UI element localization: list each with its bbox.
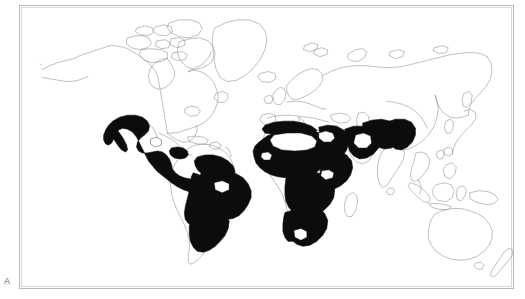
- coastline-scandinavia: [287, 69, 323, 100]
- coastline-northern-europe-continental: [287, 101, 326, 109]
- coastline-banks-island: [127, 36, 152, 50]
- coastline-sumatra: [408, 183, 430, 203]
- coastline-korea: [444, 119, 453, 133]
- coastline-svalbard: [304, 43, 318, 52]
- coastline-borneo: [432, 183, 454, 202]
- map-frame: [19, 5, 514, 289]
- coastline-newfoundland: [214, 91, 228, 102]
- coastline-ireland: [264, 95, 273, 103]
- coastline-mediterranean-north: [267, 115, 329, 122]
- coastline-tasmania: [474, 262, 484, 269]
- coastline-sri-lanka: [387, 188, 395, 195]
- coastline-india: [378, 144, 405, 188]
- coastline-new-zealand: [490, 248, 513, 277]
- world-map-canvas: [20, 6, 513, 288]
- coastline-arctic-islets-5: [171, 52, 187, 61]
- panel-label: A: [4, 276, 10, 286]
- coastline-indochina: [410, 152, 429, 182]
- coastline-bering-strait: [40, 64, 42, 66]
- coastline-novaya-zemlya: [348, 49, 367, 62]
- coastline-japan: [452, 109, 476, 154]
- coastline-new-siberian-islands: [433, 46, 448, 54]
- coastline-japan-kyushu: [444, 147, 452, 156]
- coastline-arctic-islets-2: [136, 26, 154, 36]
- coastline-black-sea: [331, 113, 351, 123]
- coastline-madagascar: [345, 193, 358, 217]
- coastline-alaska: [42, 46, 167, 133]
- coastline-greenland: [212, 20, 267, 82]
- range-yucatan-and-isthmus: [169, 147, 188, 159]
- coastline-arctic-islets-3: [170, 38, 185, 48]
- coastline-new-guinea: [470, 191, 498, 205]
- coastline-arctic-islands-russia: [314, 48, 328, 57]
- coastline-aleutians: [42, 77, 88, 82]
- coastline-kamchatka: [468, 57, 492, 116]
- figure-root: A: [0, 0, 525, 299]
- coastline-victoria-island: [140, 49, 168, 63]
- coastline-australia: [428, 209, 492, 261]
- coastline-great-britain: [273, 87, 286, 104]
- coastline-arctic-islets-4: [155, 40, 170, 49]
- coastline-java: [429, 204, 451, 210]
- coastline-philippines: [443, 163, 456, 179]
- coastline-taiwan: [436, 150, 444, 159]
- hole-arabian-interior: [354, 133, 372, 148]
- coastline-baffin-island: [177, 38, 215, 70]
- coastline-severnaya-zemlya: [390, 50, 405, 59]
- coastline-hudson-bay: [148, 59, 174, 90]
- coastline-ellesmere-island: [167, 20, 202, 38]
- coastline-cuba: [187, 136, 208, 144]
- coastline-eastern-north-america: [167, 71, 218, 134]
- coastline-iceland: [258, 72, 276, 83]
- coastline-siberia-arctic: [323, 53, 487, 76]
- coastline-sea-of-okhotsk: [435, 95, 468, 118]
- hole-central-america-gap: [150, 137, 161, 147]
- coastline-malay-peninsula: [418, 180, 421, 194]
- coastline-great-lakes: [185, 106, 200, 116]
- coastline-sulawesi: [456, 186, 466, 201]
